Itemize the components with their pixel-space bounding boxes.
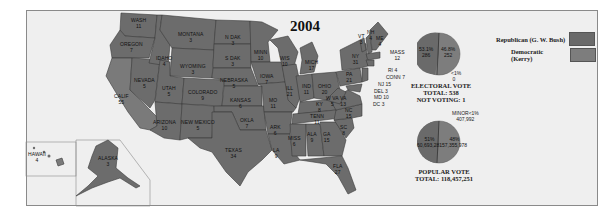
label-text: 5 <box>331 101 334 107</box>
label-mo: MO11 <box>269 98 277 109</box>
label-la: LA9 <box>273 148 279 159</box>
label-text: 11 <box>304 89 309 95</box>
label-text: 252 <box>444 52 452 58</box>
label-nebraska: NEBRASKA5 <box>220 78 248 89</box>
label-text: 8 <box>318 107 321 113</box>
label-texas: TEXAS34 <box>225 148 242 159</box>
label-ark: ARK6 <box>270 125 281 136</box>
label-text: 10 <box>282 61 288 67</box>
label-nc: NC15 <box>345 108 352 119</box>
label-ind: IND11 <box>302 84 311 95</box>
label-text: 15 <box>386 81 392 87</box>
label-text: MD <box>374 94 382 100</box>
label-text: 3 <box>382 101 385 107</box>
label-okla: OKLA7 <box>240 118 254 129</box>
label-text: 31 <box>353 59 359 65</box>
label-text: 3 <box>107 161 110 167</box>
label-text: 5 <box>167 91 170 97</box>
popular-vote-caption: POPULAR VOTE TOTAL: 118,457,251 <box>404 168 484 182</box>
label-nevada: NEVADA5 <box>134 78 155 89</box>
label-text: 5 <box>143 83 146 89</box>
label-text: 17 <box>309 65 315 71</box>
label-text: 60,693,281 <box>417 142 442 148</box>
label-hawaii: HAWAII4 <box>28 152 46 163</box>
label-va: VA13 <box>340 96 347 107</box>
map-title: 2004 <box>290 18 320 35</box>
label-minn: MINN10 <box>254 50 267 61</box>
label-pa: PA21 <box>346 72 353 83</box>
label-text: 3 <box>231 61 234 67</box>
state-hawaii <box>56 158 64 166</box>
label-text: 286 <box>422 52 430 58</box>
label-calif: CALIF55 <box>114 94 129 105</box>
electoral-minor-share: <1% 0 <box>451 71 461 82</box>
label-text: ELECTORAL VOTE <box>411 82 471 89</box>
label-text: 6 <box>239 103 242 109</box>
label-dc: DC 3 <box>373 102 384 108</box>
label-text: 55 <box>118 99 124 105</box>
label-me: ME4 <box>376 36 384 47</box>
label-text: 4 <box>163 61 166 67</box>
label-text: 7 <box>265 79 268 85</box>
label-text: 5 <box>233 83 236 89</box>
label-text: POPULAR VOTE <box>418 168 469 175</box>
label-text: 3 <box>231 40 234 46</box>
label-text: 9 <box>201 95 204 101</box>
label-ill: ILL21 <box>286 86 293 97</box>
state-fla <box>300 156 356 194</box>
label-ga: GA15 <box>323 132 330 143</box>
label-oregon: OREGON7 <box>120 42 143 53</box>
label-sdak: S DAK3 <box>225 56 241 67</box>
state-nj <box>362 68 368 82</box>
label-text: 10 <box>383 94 389 100</box>
label-text: CONN <box>386 74 401 80</box>
label-text: 34 <box>231 153 237 159</box>
label-text: NJ <box>378 81 384 87</box>
label-text: 3 <box>189 37 192 43</box>
label-text: 21 <box>287 91 293 97</box>
label-text: 15 <box>324 137 330 143</box>
electoral-rep-share: 53.1%286 <box>419 47 433 58</box>
label-text: 13 <box>340 101 346 107</box>
legend-republican-swatch <box>569 32 595 46</box>
label-tenn: TENN11 <box>310 114 324 125</box>
label-text: 4 <box>369 35 372 41</box>
label-text: 6 <box>274 130 277 136</box>
label-miss: MISS6 <box>288 136 301 147</box>
label-text: NOT VOTING: 1 <box>417 96 466 103</box>
popular-minor-share: MINOR<1% 407,992 <box>452 111 479 122</box>
legend-democratic-label: Democratic (Kerry) <box>511 48 566 62</box>
label-text: 8 <box>342 130 345 136</box>
label-ri: RI 4 <box>388 68 397 74</box>
label-text: 10 <box>162 125 168 131</box>
label-idaho: IDAHO4 <box>156 56 172 67</box>
legend-democratic-swatch <box>570 48 596 62</box>
label-text: RI <box>388 67 393 73</box>
label-text: DC <box>373 101 380 107</box>
label-utah: UTAH5 <box>162 86 176 97</box>
label-text: 11 <box>270 103 275 109</box>
label-text: 7 <box>130 47 133 53</box>
electoral-dem-share: 46.8%252 <box>441 47 455 58</box>
label-alaska: ALASKA3 <box>98 156 118 167</box>
label-wash: WASH11 <box>131 18 146 29</box>
label-iowa: IOWA7 <box>260 74 274 85</box>
label-text: 6 <box>293 141 296 147</box>
label-montana: MONTANA3 <box>178 32 203 43</box>
label-text: 9 <box>275 153 278 159</box>
label-wva: W VA5 <box>326 96 339 107</box>
label-ky: KY8 <box>316 102 323 113</box>
label-text: 407,992 <box>456 116 474 122</box>
label-mich: MICH17 <box>305 60 318 71</box>
label-text: 20 <box>322 89 328 95</box>
label-ohio: OHIO20 <box>318 84 331 95</box>
label-wis: WIS10 <box>280 56 290 67</box>
label-text: TOTAL: 538 <box>423 89 459 96</box>
label-sc: SC8 <box>340 125 347 136</box>
label-text: 7 <box>245 123 248 129</box>
label-text: 4 <box>378 41 381 47</box>
label-text: 4 <box>394 67 397 73</box>
label-text: TOTAL: 118,457,251 <box>415 175 473 182</box>
label-text: 4 <box>36 157 39 163</box>
label-text: 12 <box>394 55 400 61</box>
